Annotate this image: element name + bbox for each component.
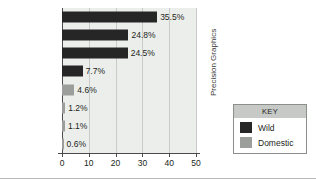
x-axis-tick-mark [89, 153, 90, 157]
x-axis-tick-label: 20 [104, 158, 128, 168]
bar-value-label: 4.6% [77, 85, 96, 95]
bar-value-label: 0.6% [67, 139, 86, 149]
bar-value-label: 7.7% [86, 66, 105, 76]
x-axis-tick-label: 10 [77, 158, 101, 168]
bar-row: Bats24.8% [0, 26, 316, 44]
bar-domestic [62, 102, 65, 113]
bar-chart-figure: Raccoons35.5%Bats24.8%Skunks24.5%Foxes7.… [0, 0, 316, 179]
x-axis-line [58, 153, 200, 154]
bar-row: Foxes7.7% [0, 62, 316, 80]
bar-wild [62, 30, 128, 41]
bar-value-label: 24.8% [131, 30, 155, 40]
legend-label: Domestic [258, 138, 293, 148]
legend-entries: WildDomestic [234, 118, 306, 153]
x-axis-tick-label: 0 [50, 158, 74, 168]
x-axis-tick-mark [196, 153, 197, 157]
bar-value-label: 1.2% [68, 103, 87, 113]
bar-value-label: 1.1% [68, 121, 87, 131]
x-axis-tick-mark [142, 153, 143, 157]
legend-item: Wild [240, 122, 306, 133]
legend-swatch-domestic [240, 137, 252, 148]
bar-row: Raccoons35.5% [0, 8, 316, 26]
legend-swatch-wild [240, 122, 252, 133]
legend-label: Wild [258, 123, 275, 133]
bar-row: Skunks24.5% [0, 44, 316, 62]
x-axis-tick-mark [62, 153, 63, 157]
legend-box: KEY WildDomestic [233, 104, 307, 154]
bar-wild [62, 66, 83, 77]
x-axis-tick-mark [116, 153, 117, 157]
credit-text: Precision Graphics [209, 29, 218, 96]
bar-domestic [62, 120, 65, 131]
x-axis-tick-label: 30 [130, 158, 154, 168]
legend-item: Domestic [240, 137, 306, 148]
bar-wild [62, 48, 128, 59]
bar-value-label: 35.5% [160, 12, 184, 22]
x-axis-tick-label: 50 [184, 158, 208, 168]
legend-title: KEY [234, 105, 306, 118]
bar-value-label: 24.5% [131, 48, 155, 58]
bar-wild [62, 12, 157, 23]
x-axis-tick-label: 40 [157, 158, 181, 168]
bar-domestic [62, 138, 64, 149]
bar-row: Cats4.6% [0, 81, 316, 99]
credit-annotation: Precision Graphics [198, 8, 212, 98]
bar-domestic [62, 84, 74, 95]
x-axis-tick-mark [169, 153, 170, 157]
